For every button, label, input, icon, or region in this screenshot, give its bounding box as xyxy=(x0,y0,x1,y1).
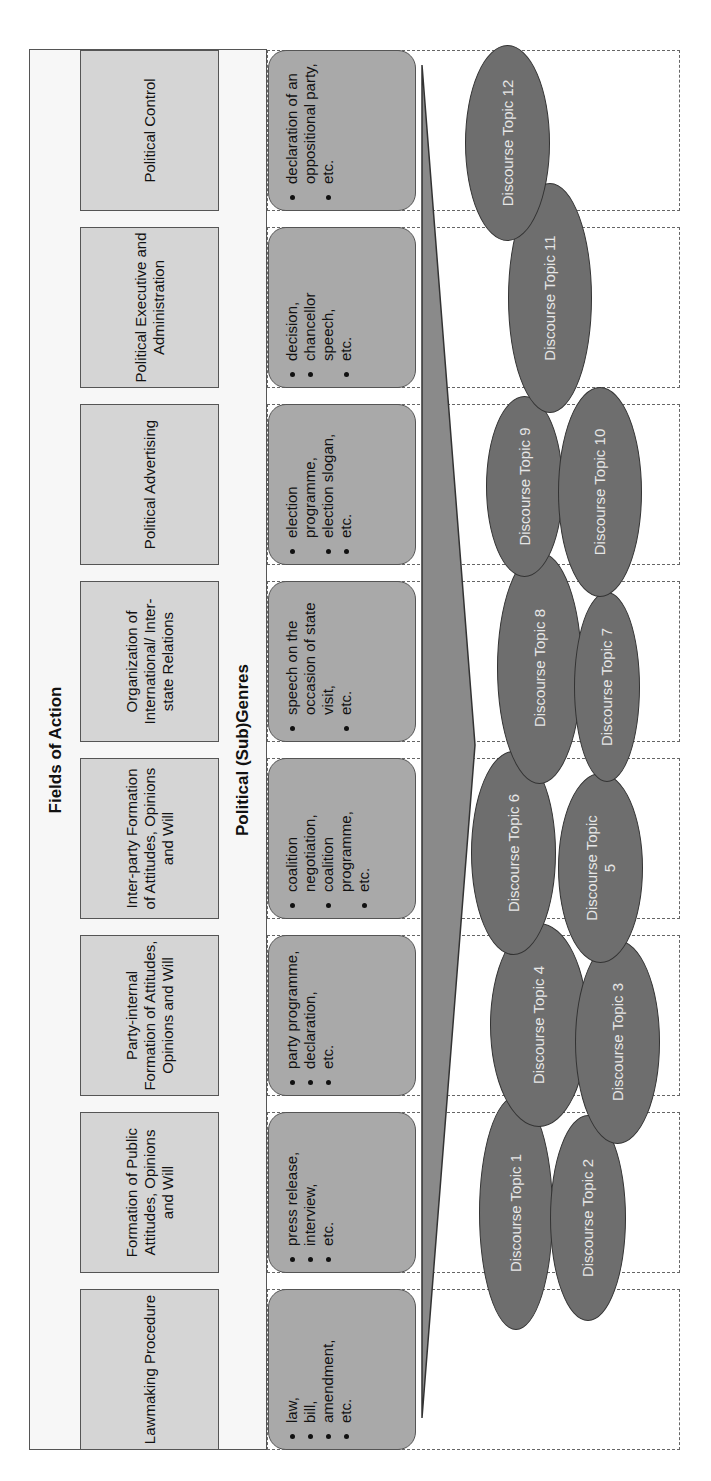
topic-label: Discourse Topic 3 xyxy=(609,983,627,1101)
topic-label: Discourse Topic 2 xyxy=(579,1159,597,1277)
discourse-topic-3: Discourse Topic 3 xyxy=(575,940,660,1144)
topic-label: Discourse Topic 11 xyxy=(541,235,559,360)
discourse-topic-12: Discourse Topic 12 xyxy=(465,45,550,241)
topic-label: Discourse Topic 8 xyxy=(531,609,549,727)
discourse-topic-9: Discourse Topic 9 xyxy=(486,396,563,577)
discourse-topic-1: Discourse Topic 1 xyxy=(479,1096,553,1330)
topic-label: Discourse Topic 4 xyxy=(530,966,548,1084)
topic-label: Discourse Topic 9 xyxy=(516,427,534,545)
discourse-topic-7: Discourse Topic 7 xyxy=(574,592,640,782)
discourse-topic-4: Discourse Topic 4 xyxy=(490,923,588,1127)
discourse-topic-5: Discourse Topic 5 xyxy=(558,773,643,963)
diagram-canvas: Fields of Action Political (Sub)Genres L… xyxy=(0,0,711,1481)
topic-label: Discourse Topic 12 xyxy=(499,80,517,206)
discourse-topic-10: Discourse Topic 10 xyxy=(558,387,642,597)
topic-label: Discourse Topic 1 xyxy=(507,1154,525,1272)
topic-label: Discourse Topic 7 xyxy=(598,628,616,746)
topic-label: Discourse Topic 10 xyxy=(591,429,609,555)
discourse-topic-2: Discourse Topic 2 xyxy=(550,1115,626,1321)
topic-label: Discourse Topic 6 xyxy=(505,794,523,912)
topic-label: Discourse Topic 5 xyxy=(583,814,619,922)
discourse-topic-8: Discourse Topic 8 xyxy=(497,552,582,784)
